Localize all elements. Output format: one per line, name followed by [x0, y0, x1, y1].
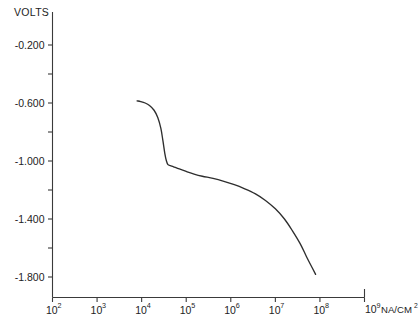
- y-tick-label: -0.200: [15, 39, 45, 51]
- x-axis-unit-label: NA/CM: [381, 304, 412, 315]
- x-tick-label-base: 10: [313, 304, 325, 316]
- y-tick-label: -0.600: [15, 97, 45, 109]
- x-tick-label-exponent: 6: [236, 301, 240, 310]
- x-tick-label-exponent: 3: [102, 301, 106, 310]
- x-tick-label-base: 10: [180, 304, 192, 316]
- y-axis-major-ticks: [48, 45, 53, 277]
- x-tick-label-exponent: 7: [280, 301, 284, 310]
- plot-axes: [53, 12, 365, 298]
- x-tick-label-exponent: 4: [147, 301, 151, 310]
- x-tick-label-base: 10: [224, 304, 236, 316]
- x-axis-title-exponent: 9: [377, 301, 381, 310]
- y-axis-title: VOLTS: [14, 6, 49, 18]
- x-axis-tick-labels: 102103104105106107108: [46, 301, 329, 316]
- x-tick-label-exponent: 5: [191, 301, 195, 310]
- x-axis-ticks: [53, 298, 365, 303]
- x-tick-label-exponent: 8: [325, 301, 329, 310]
- x-tick-label-base: 10: [91, 304, 103, 316]
- x-tick-label-exponent: 2: [58, 301, 62, 310]
- y-axis-tick-labels: -0.200-0.600-1.000-1.400-1.800: [15, 39, 45, 283]
- x-axis-unit-exponent: 2: [414, 302, 418, 309]
- chart-page: -0.200-0.600-1.000-1.400-1.800 102103104…: [0, 0, 420, 327]
- y-tick-label: -1.800: [15, 271, 45, 283]
- y-tick-label: -1.000: [15, 155, 45, 167]
- x-tick-label-base: 10: [46, 304, 58, 316]
- polarization-chart: -0.200-0.600-1.000-1.400-1.800 102103104…: [0, 0, 420, 327]
- polarization-curve-line: [137, 101, 316, 275]
- x-axis-title-base: 10: [365, 303, 377, 315]
- x-axis-title: 10 9 NA/CM 2: [365, 301, 418, 316]
- x-tick-label-base: 10: [135, 304, 147, 316]
- x-tick-label-base: 10: [269, 304, 281, 316]
- y-tick-label: -1.400: [15, 213, 45, 225]
